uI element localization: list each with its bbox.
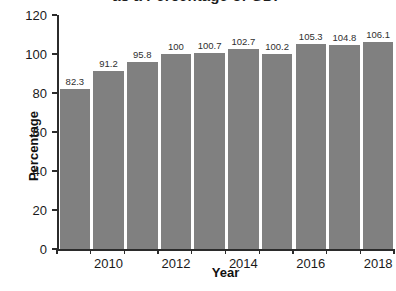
x-tick-label: 2012 — [161, 256, 190, 271]
bar[interactable] — [329, 45, 360, 249]
y-axis-line — [57, 15, 59, 249]
bar-value-label: 105.3 — [299, 31, 323, 42]
x-tick — [225, 249, 226, 254]
x-tick — [259, 249, 260, 254]
bar-value-label: 106.1 — [366, 29, 390, 40]
bar[interactable] — [127, 62, 158, 249]
bar-value-label: 100 — [168, 41, 184, 52]
bar-value-label: 100.7 — [198, 40, 222, 51]
y-tick-label: 40 — [33, 163, 47, 178]
bar-value-label: 104.8 — [333, 32, 357, 43]
y-tick: 20 — [52, 209, 57, 210]
x-tick — [393, 249, 394, 254]
chart-title: as a Percentage of GDP — [0, 0, 396, 4]
bar-value-label: 100.2 — [265, 41, 289, 52]
y-tick-label: 60 — [33, 124, 47, 139]
x-tick-label: 2010 — [94, 256, 123, 271]
x-tick-label: 2016 — [296, 256, 325, 271]
y-tick-label: 100 — [25, 46, 47, 61]
x-tick — [292, 249, 293, 254]
x-tick-label: 2014 — [229, 256, 258, 271]
x-tick — [360, 249, 361, 254]
bar[interactable] — [161, 54, 192, 249]
x-tick-label: 2018 — [364, 256, 393, 271]
y-tick: 120 — [52, 14, 57, 15]
y-tick: 40 — [52, 170, 57, 171]
y-tick: 80 — [52, 92, 57, 93]
bar[interactable] — [296, 44, 327, 249]
y-tick: 60 — [52, 131, 57, 132]
bar[interactable] — [194, 53, 225, 249]
bar-value-label: 91.2 — [99, 58, 118, 69]
x-tick — [191, 249, 192, 254]
x-tick — [90, 249, 91, 254]
bar[interactable] — [228, 49, 259, 249]
bar[interactable] — [60, 89, 91, 249]
bar-value-label: 102.7 — [231, 36, 255, 47]
y-tick-label: 80 — [33, 85, 47, 100]
plot-area: 020406080100120 20102012201420162018 82.… — [57, 15, 394, 249]
y-tick-label: 20 — [33, 202, 47, 217]
y-tick: 100 — [52, 53, 57, 54]
bar-chart: as a Percentage of GDP Percentage Year 0… — [0, 0, 396, 291]
bar[interactable] — [93, 71, 124, 249]
bar-value-label: 82.3 — [66, 76, 85, 87]
x-tick — [124, 249, 125, 254]
y-tick-label: 120 — [25, 8, 47, 23]
x-tick — [326, 249, 327, 254]
bar[interactable] — [262, 54, 293, 249]
y-tick-label: 0 — [40, 241, 47, 256]
bar[interactable] — [363, 42, 394, 249]
bar-value-label: 95.8 — [133, 49, 152, 60]
x-tick — [157, 249, 158, 254]
x-tick — [56, 249, 57, 254]
